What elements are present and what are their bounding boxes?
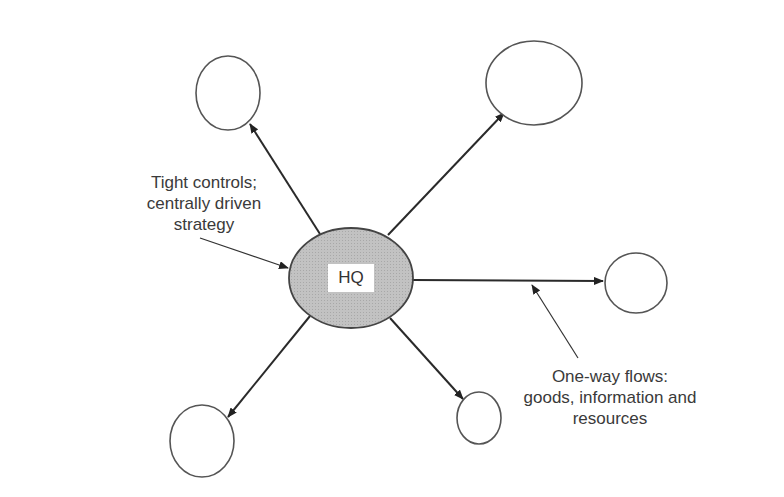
arrow-to-right bbox=[413, 280, 603, 281]
annotation-left-line-1: Tight controls; bbox=[116, 172, 292, 193]
arrow-to-bottom-middle bbox=[390, 318, 463, 399]
arrow-to-top-right bbox=[388, 113, 504, 235]
node-bottom-middle bbox=[457, 392, 501, 444]
node-right bbox=[605, 253, 667, 313]
diagram-canvas: HQ Tight controls; centrally driven stra… bbox=[0, 0, 784, 497]
node-bottom-left bbox=[170, 405, 234, 477]
annotation-left-line-2: centrally driven bbox=[116, 193, 292, 214]
hq-label: HQ bbox=[328, 264, 374, 292]
node-top-right bbox=[486, 41, 582, 125]
annotation-left-line-3: strategy bbox=[116, 214, 292, 235]
annotation-right: One-way flows: goods, information and re… bbox=[510, 366, 710, 429]
annotation-right-line-1: One-way flows: bbox=[510, 366, 710, 387]
pointer-left bbox=[200, 238, 288, 268]
pointer-right bbox=[532, 285, 578, 358]
annotation-right-line-2: goods, information and bbox=[510, 387, 710, 408]
annotation-right-line-3: resources bbox=[510, 408, 710, 429]
annotation-left: Tight controls; centrally driven strateg… bbox=[116, 172, 292, 235]
arrow-to-bottom-left bbox=[228, 316, 310, 417]
node-top-left bbox=[196, 56, 260, 130]
